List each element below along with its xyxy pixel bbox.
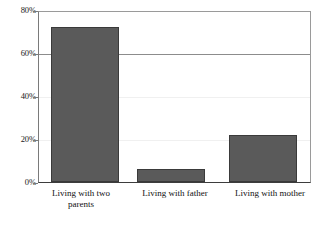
x-axis-tick-label-living-with-father: Living with father [128,188,222,199]
y-axis-tick-label-80: 80% [2,6,36,15]
y-axis-tick-label-20: 20% [2,135,36,144]
y-axis-tick-label-60: 60% [2,49,36,58]
y-axis-tick-label-0: 0% [2,178,36,187]
x-axis-tick-label-living-with-two-parents: Living with two parents [32,188,130,210]
bar-living-with-two-parents [51,27,119,182]
bar-chart: 80% 60% 40% 20% 0% Living with two paren… [0,0,321,225]
bar-living-with-father [137,169,205,182]
y-axis-tick-label-40: 40% [2,92,36,101]
bar-living-with-mother [229,135,297,182]
x-axis-tick-label-living-with-mother: Living with mother [222,188,318,199]
y-axis-tick-mark-0 [33,183,38,184]
plot-area [38,11,311,183]
